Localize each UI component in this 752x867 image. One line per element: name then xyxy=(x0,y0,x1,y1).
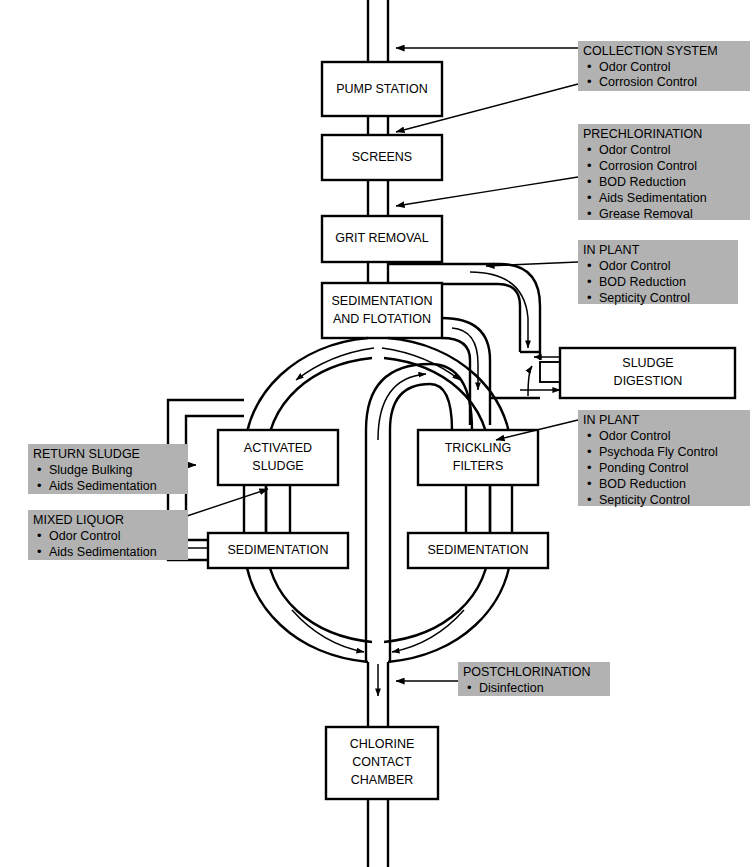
unit-grit-removal: GRIT REMOVAL xyxy=(322,216,442,262)
annotation-return-sludge-title: RETURN SLUDGE xyxy=(33,447,140,461)
unit-pump-station: PUMP STATION xyxy=(322,62,442,116)
bullet-icon: • xyxy=(467,680,472,695)
unit-trickling-filters: TRICKLING FILTERS xyxy=(418,430,538,485)
annotation-prechlorination: PRECHLORINATION • Odor Control • Corrosi… xyxy=(578,124,750,221)
annotation-collection-system-title: COLLECTION SYSTEM xyxy=(583,44,718,58)
bullet-icon: • xyxy=(587,428,592,443)
bullet-icon: • xyxy=(587,476,592,491)
unit-grit-removal-label: GRIT REMOVAL xyxy=(335,231,428,245)
final-effluent-channel xyxy=(368,799,388,867)
unit-activated-sludge-label-1: ACTIVATED xyxy=(244,441,312,455)
unit-chlorine-contact-chamber: CHLORINE CONTACT CHAMBER xyxy=(326,727,438,799)
annotation-in-plant-upper: IN PLANT • Odor Control • BOD Reduction … xyxy=(578,240,738,305)
bullet-icon: • xyxy=(587,142,592,157)
bullet-icon: • xyxy=(587,460,592,475)
annotation-prechlorination-item-4: Grease Removal xyxy=(599,207,693,221)
annotation-return-sludge-item-0: Sludge Bulking xyxy=(49,463,132,477)
annotation-prechlorination-title: PRECHLORINATION xyxy=(583,127,702,141)
unit-sedflot-label-1: SEDIMENTATION xyxy=(332,294,433,308)
unit-sedflot-label-2: AND FLOTATION xyxy=(333,312,431,326)
annotation-prechlorination-item-3: Aids Sedimentation xyxy=(599,191,707,205)
annotation-in-plant-lower-item-3: BOD Reduction xyxy=(599,477,686,491)
annotation-mixed-liquor-item-1: Aids Sedimentation xyxy=(49,545,157,559)
unit-pump-station-label: PUMP STATION xyxy=(336,82,428,96)
bullet-icon: • xyxy=(587,74,592,89)
unit-activated-sludge-label-2: SLUDGE xyxy=(252,459,303,473)
annotation-in-plant-upper-item-2: Septicity Control xyxy=(599,291,690,305)
unit-sludge-digestion-label-2: DIGESTION xyxy=(614,374,683,388)
bullet-icon: • xyxy=(587,59,592,74)
bullet-icon: • xyxy=(587,174,592,189)
unit-sludge-digestion-label-1: SLUDGE xyxy=(622,356,673,370)
bullet-icon: • xyxy=(587,290,592,305)
unit-sedimentation-flotation: SEDIMENTATION AND FLOTATION xyxy=(322,283,442,338)
bullet-icon: • xyxy=(37,462,42,477)
unit-trickling-filters-label-2: FILTERS xyxy=(453,459,503,473)
unit-screens-label: SCREENS xyxy=(352,150,412,164)
annotation-prechlorination-item-1: Corrosion Control xyxy=(599,159,697,173)
secondary-treatment-loop xyxy=(244,338,512,662)
bullet-icon: • xyxy=(587,206,592,221)
bullet-icon: • xyxy=(587,492,592,507)
bullet-icon: • xyxy=(587,158,592,173)
annotation-postchlorination: POSTCHLORINATION • Disinfection xyxy=(458,662,610,696)
unit-sedimentation-left-label: SEDIMENTATION xyxy=(228,543,329,557)
unit-ccc-label-2: CONTACT xyxy=(352,755,412,769)
activated-sludge-connector xyxy=(266,485,290,533)
bullet-icon: • xyxy=(587,190,592,205)
annotation-in-plant-lower-item-2: Ponding Control xyxy=(599,461,689,475)
annotation-return-sludge-item-1: Aids Sedimentation xyxy=(49,479,157,493)
unit-sedimentation-right: SEDIMENTATION xyxy=(408,533,548,568)
annotation-collection-system-item-0: Odor Control xyxy=(599,60,671,74)
annotation-in-plant-lower-title: IN PLANT xyxy=(583,413,640,427)
bullet-icon: • xyxy=(587,258,592,273)
unit-ccc-label-3: CHAMBER xyxy=(351,773,414,787)
unit-sludge-digestion: SLUDGE DIGESTION xyxy=(490,348,735,398)
unit-sedimentation-right-label: SEDIMENTATION xyxy=(428,543,529,557)
bullet-icon: • xyxy=(37,478,42,493)
annotation-in-plant-lower-item-1: Psychoda Fly Control xyxy=(599,445,718,459)
trickling-filter-connector xyxy=(466,485,490,533)
process-flow-diagram: PUMP STATION SCREENS GRIT REMOVAL SEDIME… xyxy=(0,0,752,867)
annotation-in-plant-lower-item-0: Odor Control xyxy=(599,429,671,443)
annotation-postchlorination-title: POSTCHLORINATION xyxy=(463,665,591,679)
annotation-in-plant-upper-item-1: BOD Reduction xyxy=(599,275,686,289)
annotation-mixed-liquor: MIXED LIQUOR • Odor Control • Aids Sedim… xyxy=(28,510,188,560)
annotation-prechlorination-item-0: Odor Control xyxy=(599,143,671,157)
annotation-collection-system-item-1: Corrosion Control xyxy=(599,75,697,89)
effluent-channel xyxy=(368,662,388,727)
unit-sedimentation-left: SEDIMENTATION xyxy=(208,533,348,568)
annotation-in-plant-upper-item-0: Odor Control xyxy=(599,259,671,273)
unit-trickling-filters-label-1: TRICKLING xyxy=(445,441,512,455)
bullet-icon: • xyxy=(37,544,42,559)
bullet-icon: • xyxy=(37,528,42,543)
annotation-mixed-liquor-item-0: Odor Control xyxy=(49,529,121,543)
annotation-prechlorination-item-2: BOD Reduction xyxy=(599,175,686,189)
unit-activated-sludge: ACTIVATED SLUDGE xyxy=(218,430,338,485)
unit-screens: SCREENS xyxy=(322,135,442,180)
annotation-in-plant-upper-title: IN PLANT xyxy=(583,243,640,257)
unit-ccc-label-1: CHLORINE xyxy=(350,737,415,751)
diagram-canvas: PUMP STATION SCREENS GRIT REMOVAL SEDIME… xyxy=(0,0,752,867)
annotation-postchlorination-item-0: Disinfection xyxy=(479,681,544,695)
bullet-icon: • xyxy=(587,274,592,289)
annotation-mixed-liquor-title: MIXED LIQUOR xyxy=(33,513,124,527)
sludge-junction-box xyxy=(540,362,560,382)
annotation-return-sludge: RETURN SLUDGE • Sludge Bulking • Aids Se… xyxy=(28,444,188,494)
annotation-in-plant-lower: IN PLANT • Odor Control • Psychoda Fly C… xyxy=(578,410,750,507)
annotation-in-plant-lower-item-4: Septicity Control xyxy=(599,493,690,507)
bullet-icon: • xyxy=(587,444,592,459)
annotation-collection-system: COLLECTION SYSTEM • Odor Control • Corro… xyxy=(578,41,750,91)
